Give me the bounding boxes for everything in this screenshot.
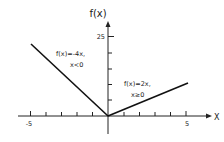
x-tick-label-5: 5 [185,120,189,128]
annotation-positive-formula: f(x)=2x, [124,80,151,88]
y-axis-arrow-icon [106,21,111,27]
x-axis-arrow-icon [206,114,212,119]
x-tick-label-neg5: -5 [26,120,32,128]
x-axis-label: X [214,113,220,122]
annotation-negative-formula: f(x)=-4x, [56,50,85,58]
annotation-negative-condition: x<0 [70,61,83,69]
y-tick-label-25: 25 [97,33,105,41]
annotation-positive-condition: x≥0 [131,91,144,99]
function-plot: f(x) 25 -5 5 X f(x)=-4x, x<0 f(x)=2x, x≥… [0,0,224,142]
y-ticks [108,37,114,101]
y-axis-label: f(x) [89,8,106,19]
